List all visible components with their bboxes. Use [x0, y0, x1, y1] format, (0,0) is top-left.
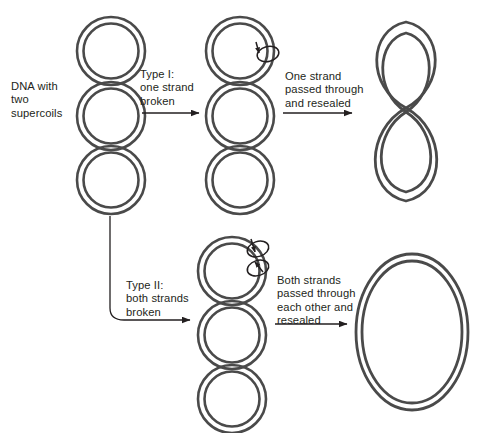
supercoiled-dna-type1-nicked: [206, 17, 274, 214]
diagram-canvas: [0, 0, 488, 433]
label-type-two-result: Both strands passed through each other a…: [277, 274, 373, 328]
figure-eight-dna: [375, 22, 437, 201]
label-type-two: Type II: both strands broken: [126, 279, 202, 319]
label-type-one-result: One strand passed through and resealed: [285, 70, 385, 110]
topoisomerase-diagram: DNA with two supercoils Type I: one stra…: [0, 0, 488, 433]
supercoiled-dna-type2-nicked: [198, 237, 266, 433]
label-type-one: Type I: one strand broken: [140, 68, 212, 108]
label-starting-dna: DNA with two supercoils: [11, 80, 91, 120]
